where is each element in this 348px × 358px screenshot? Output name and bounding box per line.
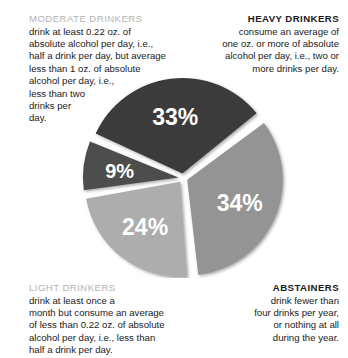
callout-line: half a drink per day. xyxy=(29,344,219,356)
callout-body-abstainers: drink fewer than four drinks per year, o… xyxy=(179,295,339,345)
callout-line: during the year. xyxy=(179,332,339,344)
callout-line: drink fewer than xyxy=(179,295,339,307)
callout-line: alcohol per day, i.e., xyxy=(29,75,199,87)
callout-line: drinks per xyxy=(29,100,199,112)
callout-heavy-drinkers: HEAVY DRINKERS consume an average of one… xyxy=(159,12,339,75)
callout-heading-heavy: HEAVY DRINKERS xyxy=(159,12,339,25)
callout-line: consume an average of xyxy=(159,26,339,38)
callout-body-heavy: consume an average of one oz. or more of… xyxy=(159,26,339,76)
pie-label-34-percent: 34% xyxy=(217,190,263,216)
callout-line: more drinks per day. xyxy=(159,63,339,75)
callout-line: one oz. or more of absolute xyxy=(159,38,339,50)
drinker-categories-infographic: 9% 33% 34% 24% MODERATE DRINKERS drink a… xyxy=(0,0,348,358)
callout-heading-abstainers: ABSTAINERS xyxy=(179,281,339,294)
pie-label-24-percent: 24% xyxy=(122,214,168,240)
callout-line: or nothing at all xyxy=(179,319,339,331)
callout-line: alcohol per day, i.e., two or xyxy=(159,50,339,62)
callout-line: four drinks per year, xyxy=(179,307,339,319)
callout-abstainers: ABSTAINERS drink fewer than four drinks … xyxy=(179,281,339,344)
pie-label-9-percent: 9% xyxy=(105,160,134,182)
callout-line: day. xyxy=(29,112,199,124)
callout-line: less than two xyxy=(29,88,199,100)
